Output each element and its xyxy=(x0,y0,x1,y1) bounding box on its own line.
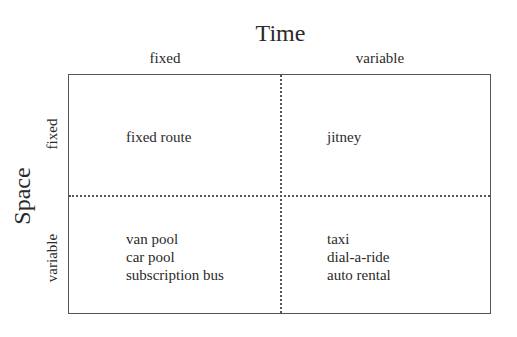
cell-item: subscription bus xyxy=(126,266,224,284)
cell-item: jitney xyxy=(327,128,361,146)
row-label-variable: variable xyxy=(44,234,61,282)
time-axis-title: Time xyxy=(0,20,517,47)
cell-space-variable-time-fixed: van pool car pool subscription bus xyxy=(126,230,224,284)
cell-item: taxi xyxy=(327,230,391,248)
column-label-variable: variable xyxy=(330,50,430,67)
cell-item: auto rental xyxy=(327,266,391,284)
cell-space-fixed-time-fixed: fixed route xyxy=(126,128,191,146)
cell-space-fixed-time-variable: jitney xyxy=(327,128,361,146)
cell-item: van pool xyxy=(126,230,224,248)
column-label-fixed: fixed xyxy=(120,50,210,67)
vertical-divider xyxy=(280,75,282,313)
horizontal-divider xyxy=(69,195,490,197)
cell-item: car pool xyxy=(126,248,224,266)
row-label-fixed: fixed xyxy=(44,119,61,150)
cell-item: fixed route xyxy=(126,128,191,146)
space-axis-title: Space xyxy=(9,167,36,224)
cell-space-variable-time-variable: taxi dial-a-ride auto rental xyxy=(327,230,391,284)
cell-item: dial-a-ride xyxy=(327,248,391,266)
